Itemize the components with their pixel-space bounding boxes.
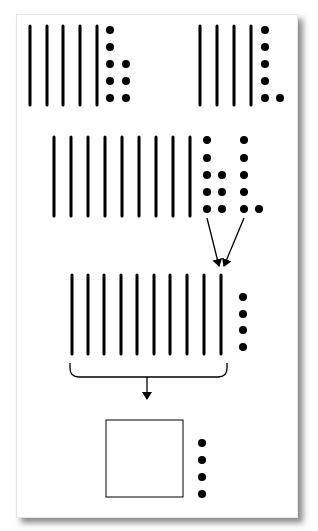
one-dot [261, 60, 269, 68]
one-dot [198, 456, 206, 464]
diagram-stage [0, 0, 318, 531]
one-dot [218, 205, 226, 213]
one-dot [203, 136, 211, 144]
one-dot [261, 26, 269, 34]
grouping-brace [70, 363, 227, 377]
one-dot [203, 205, 211, 213]
number-group-top-left [30, 26, 130, 105]
one-dot [240, 154, 248, 162]
one-dot [239, 293, 247, 301]
arrow-right-to-ten [224, 218, 244, 266]
place-value-diagram [0, 0, 318, 531]
one-dot [203, 188, 211, 196]
number-group-combined [54, 136, 263, 216]
one-dot [240, 171, 248, 179]
one-dot [203, 154, 211, 162]
one-dot [239, 343, 247, 351]
one-dot [261, 43, 269, 51]
one-dot [106, 77, 114, 85]
one-dot [218, 171, 226, 179]
one-dot [240, 136, 248, 144]
one-dot [203, 171, 211, 179]
arrow-left-to-ten [207, 218, 219, 266]
one-dot [106, 60, 114, 68]
arrows-layer [147, 218, 244, 399]
number-group-hundred [198, 439, 206, 498]
one-dot [198, 490, 206, 498]
one-dot [122, 94, 130, 102]
one-dot [106, 43, 114, 51]
groups-layer [30, 26, 284, 498]
brace-layer [70, 363, 227, 377]
one-dot [198, 473, 206, 481]
one-dot [261, 94, 269, 102]
one-dot [239, 326, 247, 334]
one-dot [276, 94, 284, 102]
one-dot [198, 439, 206, 447]
one-dot [122, 60, 130, 68]
one-dot [240, 188, 248, 196]
one-dot [255, 205, 263, 213]
one-dot [239, 310, 247, 318]
one-dot [106, 26, 114, 34]
one-dot [122, 77, 130, 85]
hundred-square [106, 420, 183, 497]
one-dot [261, 77, 269, 85]
number-group-top-right [200, 26, 284, 105]
square-layer [106, 420, 183, 497]
one-dot [240, 205, 248, 213]
one-dot [106, 94, 114, 102]
one-dot [218, 188, 226, 196]
number-group-regrouped [72, 275, 247, 354]
